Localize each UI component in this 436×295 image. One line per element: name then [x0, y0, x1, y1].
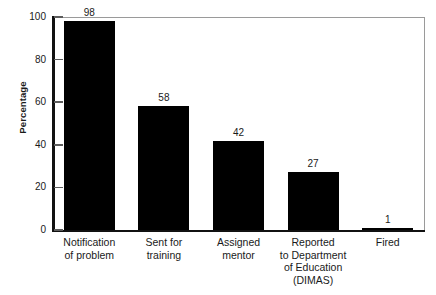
- bar-value-label: 58: [134, 93, 194, 103]
- category-label-line: to Department: [265, 249, 361, 262]
- bar: [64, 21, 115, 230]
- bar: [288, 172, 339, 230]
- bar-value-label: 27: [283, 159, 343, 169]
- bar-value-label: 42: [209, 128, 269, 138]
- bar-value-label: 98: [59, 8, 119, 18]
- category-label-line: Fired: [340, 236, 436, 249]
- category-label-line: (DIMAS): [265, 274, 361, 287]
- bar: [362, 228, 413, 231]
- bar: [138, 106, 189, 230]
- bar: [213, 141, 264, 230]
- category-label-line: of Education: [265, 261, 361, 274]
- bar-value-label: 1: [358, 215, 418, 225]
- x-axis-category-label: Fired: [340, 236, 436, 249]
- bar-chart: Percentage 020406080100 985842271 Notifi…: [0, 0, 436, 295]
